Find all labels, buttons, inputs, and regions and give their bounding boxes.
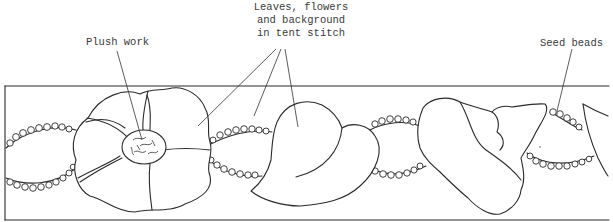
pattern-drawing	[0, 0, 613, 222]
leaf-heart	[251, 102, 379, 206]
seed-bead-chain-left	[6, 123, 76, 192]
embroidery-diagram: Plush work Leaves, flowers and backgroun…	[0, 0, 613, 222]
stipple-dot	[539, 146, 541, 148]
flower-plush	[73, 88, 211, 212]
leader-tent-stitch-background	[254, 49, 281, 116]
leaf-edge-fragment	[583, 104, 608, 176]
leader-tent-stitch-flower	[198, 49, 276, 126]
plush-work-center	[122, 130, 166, 164]
seed-bead-chain-middle-left	[207, 126, 272, 179]
leader-seed-beads	[557, 49, 572, 111]
